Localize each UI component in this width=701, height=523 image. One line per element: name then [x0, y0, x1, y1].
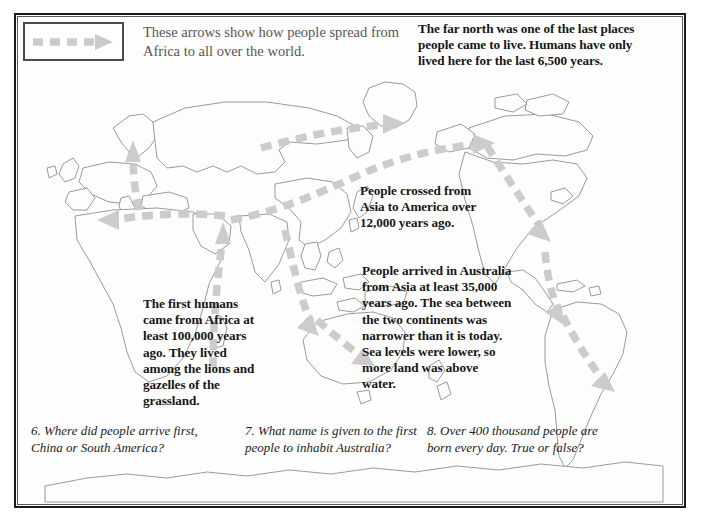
- question-6: 6. Where did people arrive first, China …: [31, 423, 226, 456]
- note-africa: The first humans came from Africa at lea…: [143, 296, 265, 409]
- worksheet-page: .land { fill:#fdfdfd; stroke:#8e8e8e; st…: [0, 0, 701, 523]
- question-7: 7. What name is given to the first peopl…: [245, 423, 420, 456]
- legend-box: [23, 22, 124, 61]
- note-asia-to-america: People crossed from Asia to America over…: [360, 183, 490, 232]
- note-australia: People arrived in Australia from Asia at…: [362, 263, 514, 393]
- dashed-arrow-right-icon: [25, 24, 122, 59]
- note-far-north: The far north was one of the last places…: [418, 21, 636, 70]
- question-8: 8. Over 400 thousand people are born eve…: [427, 423, 612, 456]
- legend-caption: These arrows show how people spread from…: [143, 23, 405, 61]
